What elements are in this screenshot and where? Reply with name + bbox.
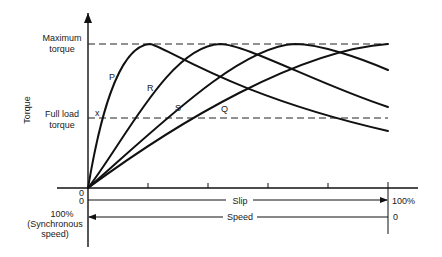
slip-end-label: 100% [392, 196, 415, 206]
speed-start-label-line3: speed) [41, 229, 69, 239]
slip-label: Slip [232, 196, 247, 206]
speed-end-label: 0 [393, 212, 398, 222]
curve-label-r: R [147, 83, 154, 93]
point-label-x: x [95, 108, 100, 118]
curve-label-s: S [175, 103, 181, 113]
axis-ticks [148, 183, 328, 188]
curve-s [88, 44, 388, 188]
speed-label: Speed [227, 212, 253, 222]
full-load-label-line1: Full load [45, 109, 79, 119]
slip-start-label: 0 [79, 196, 84, 206]
torque-slip-diagram: P R S Q x Torque Maximum torque Full loa… [0, 0, 442, 257]
max-torque-label-line2: torque [49, 44, 75, 54]
speed-start-label-line1: 100% [50, 209, 73, 219]
max-torque-label-line1: Maximum [42, 33, 81, 43]
y-axis-title: Torque [22, 96, 32, 124]
curve-label-p: P [109, 72, 115, 82]
full-load-label-line2: torque [49, 120, 75, 130]
speed-start-label-line2: (Synchronous [27, 219, 83, 229]
curve-label-q: Q [221, 104, 228, 114]
